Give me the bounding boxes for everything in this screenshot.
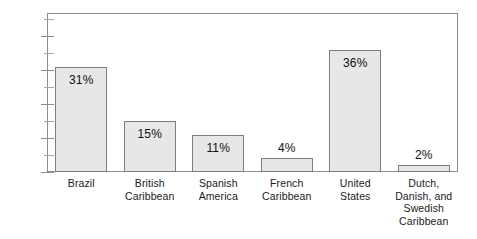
bar-chart: 0%10%20%30%40% 31%15%11%4%36%2% BrazilBr… [0, 0, 477, 239]
x-axis-label-line: Swedish [384, 202, 464, 215]
bar-value-label: 11% [192, 142, 244, 155]
x-axis-label: Dutch,Danish, andSwedishCaribbean [384, 177, 464, 227]
bar [398, 165, 450, 172]
bar-value-label: 2% [398, 149, 450, 162]
x-axis-label-line: Dutch, [384, 177, 464, 190]
bar-value-label: 4% [261, 142, 313, 155]
bar-value-label: 36% [329, 57, 381, 70]
bar [261, 158, 313, 172]
x-axis-label-line: Danish, and [384, 190, 464, 203]
x-axis-label-line: Caribbean [384, 215, 464, 228]
bar-value-label: 15% [124, 128, 176, 141]
bar-value-label: 31% [55, 74, 107, 87]
